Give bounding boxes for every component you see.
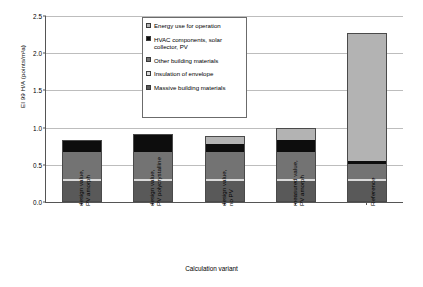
chart-container: EI 99 H/A (points/m²a) 0.00.51.01.52.02.…	[0, 0, 423, 287]
x-tick-label-text: measured value,PV amorph	[291, 160, 306, 206]
legend-label: HVAC components, solar collector, PV	[154, 36, 243, 50]
legend-label: Insulation of envelope	[154, 70, 213, 77]
bar-segment[interactable]	[205, 144, 245, 152]
x-axis-title: Calculation variant	[0, 265, 423, 272]
legend-label: Energy use for operation	[154, 22, 221, 29]
legend-swatch-icon	[146, 85, 151, 90]
bar-segment[interactable]	[276, 140, 316, 152]
bar-segment[interactable]	[133, 134, 173, 153]
bar-segment[interactable]	[347, 181, 387, 202]
bar-segment[interactable]	[276, 128, 316, 140]
legend-label: Other building materials	[154, 57, 218, 64]
y-tick-label: 1.0	[33, 124, 42, 131]
legend-item[interactable]: HVAC components, solar collector, PV	[146, 36, 243, 50]
bar-segment[interactable]	[347, 34, 387, 161]
legend-swatch-icon	[146, 57, 151, 62]
y-axis-title: EI 99 H/A (points/m²a)	[19, 22, 26, 132]
bar-segment[interactable]	[62, 140, 102, 152]
legend-item[interactable]: Insulation of envelope	[146, 70, 243, 77]
y-tick-label: 2.5	[33, 13, 42, 20]
y-tick-label: 2.0	[33, 50, 42, 57]
legend-item[interactable]: Massive building materials	[146, 84, 243, 91]
x-tick-label-text: Reference	[369, 177, 376, 206]
legend-label: Massive building materials	[154, 84, 225, 91]
legend-swatch-icon	[146, 23, 151, 28]
x-tick-mark	[366, 202, 367, 205]
y-tick-label: 1.5	[33, 87, 42, 94]
legend-item[interactable]: Other building materials	[146, 57, 243, 64]
x-tick-label-text: design value,PV amorph	[77, 170, 92, 206]
y-tick-label: 0.5	[33, 161, 42, 168]
bar-segment[interactable]	[205, 136, 245, 144]
x-tick-label-text: design value,no PV	[220, 170, 235, 206]
legend-item[interactable]: Energy use for operation	[146, 22, 243, 29]
chart-legend: Energy use for operationHVAC components,…	[142, 17, 247, 118]
x-tick-label-text: design value,PV polycrystalline	[148, 157, 163, 206]
legend-swatch-icon	[146, 36, 151, 41]
bar-stack[interactable]	[347, 34, 387, 202]
legend-swatch-icon	[146, 71, 151, 76]
bar-segment[interactable]	[347, 164, 387, 178]
y-tick-label: 0.0	[33, 199, 42, 206]
